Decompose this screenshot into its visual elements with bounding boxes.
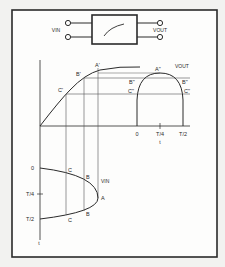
y-tick-0: 0 bbox=[31, 165, 34, 171]
y-tick-t2: T/2 bbox=[26, 216, 34, 222]
output-terminal-bottom bbox=[157, 34, 162, 39]
input-terminal-top bbox=[65, 20, 70, 25]
point-a: A bbox=[101, 195, 105, 201]
point-c-prime: C' bbox=[58, 87, 63, 93]
point-c-double-prime-left: C" bbox=[128, 88, 134, 94]
point-b-double-prime-left: B" bbox=[129, 79, 135, 85]
point-c-double-prime-right: C" bbox=[184, 88, 190, 94]
x-tick-0: 0 bbox=[135, 131, 138, 137]
nonlinear-device-box bbox=[92, 15, 137, 44]
y-tick-t4: T/4 bbox=[26, 191, 34, 197]
point-c-bottom: C bbox=[68, 217, 72, 223]
x-tick-t4: T/4 bbox=[156, 131, 164, 137]
vout-axis-label: VOUT bbox=[175, 63, 189, 69]
point-a-prime: A' bbox=[95, 62, 100, 68]
vin-label: VIN bbox=[52, 27, 61, 33]
point-b-top: B bbox=[86, 174, 90, 180]
x-tick-t2: T/2 bbox=[179, 131, 187, 137]
point-b-prime: B' bbox=[76, 71, 81, 77]
point-a-double-prime: A" bbox=[155, 66, 161, 72]
point-b-double-prime-right: B" bbox=[182, 79, 188, 85]
output-terminal-top bbox=[157, 20, 162, 25]
input-terminal-bottom bbox=[65, 34, 70, 39]
vin-curve-label: VIN bbox=[101, 178, 110, 184]
vout-label: VOUT bbox=[153, 27, 167, 33]
point-b-bottom: B bbox=[86, 211, 90, 217]
waveform-distortion-diagram: VIN VOUT A' B' C' VOUT A" B" B" C" C" 0 … bbox=[0, 0, 225, 267]
point-c-top: C bbox=[68, 167, 72, 173]
